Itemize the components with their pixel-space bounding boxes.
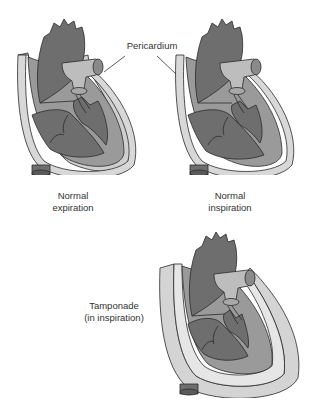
caption-normal-expiration: Normal expiration — [38, 190, 108, 214]
caption-line: Tamponade — [74, 300, 154, 312]
caption-line: inspiration — [195, 202, 265, 214]
caption-tamponade: Tamponade (in inspiration) — [74, 300, 154, 324]
caption-line: Normal — [38, 190, 108, 202]
caption-normal-inspiration: Normal inspiration — [195, 190, 265, 214]
caption-line: (in inspiration) — [74, 312, 154, 324]
caption-line: Normal — [195, 190, 265, 202]
pericardium-label: Pericardium — [112, 40, 192, 52]
caption-line: expiration — [38, 202, 108, 214]
